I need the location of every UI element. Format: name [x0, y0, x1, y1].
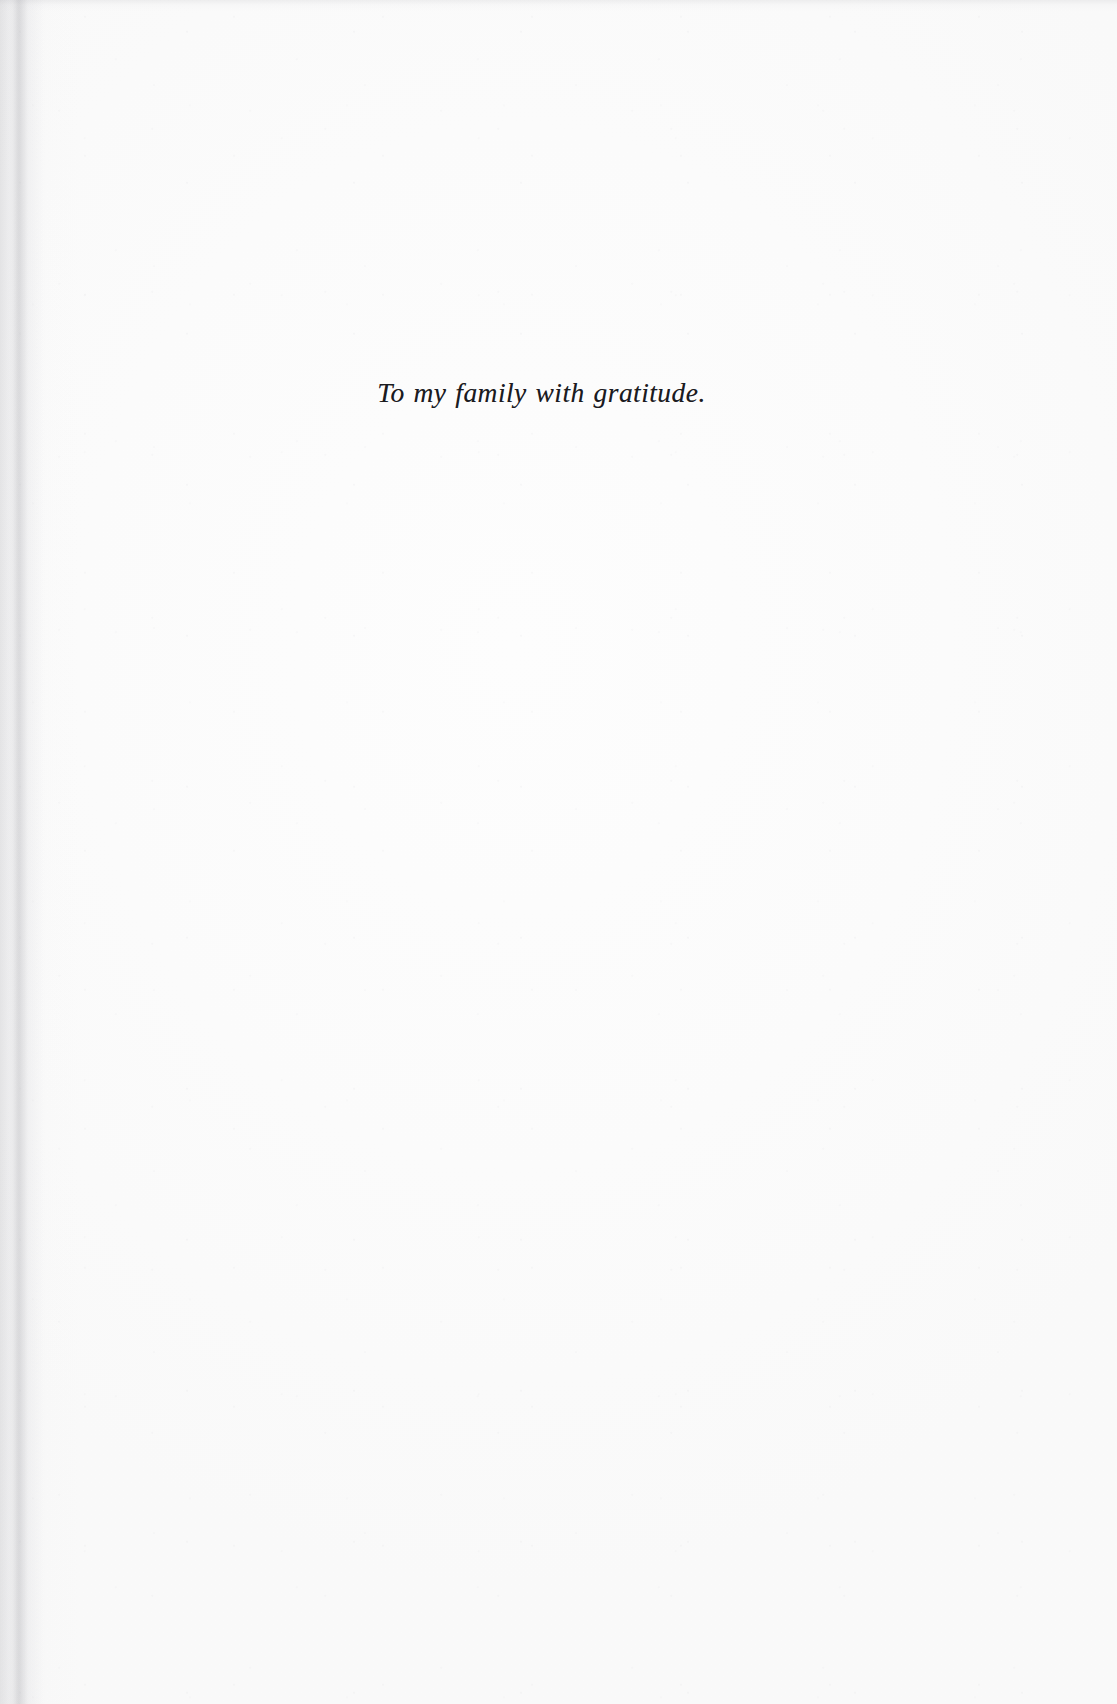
page-gutter-shadow — [0, 0, 46, 1704]
dedication-page: To my family with gratitude. — [0, 0, 1117, 1704]
dedication-block: To my family with gratitude. — [0, 376, 1117, 410]
paper-grain-texture — [0, 0, 1117, 1704]
top-edge-scan-artifact — [0, 0, 1117, 11]
dedication-text: To my family with gratitude. — [377, 376, 706, 410]
